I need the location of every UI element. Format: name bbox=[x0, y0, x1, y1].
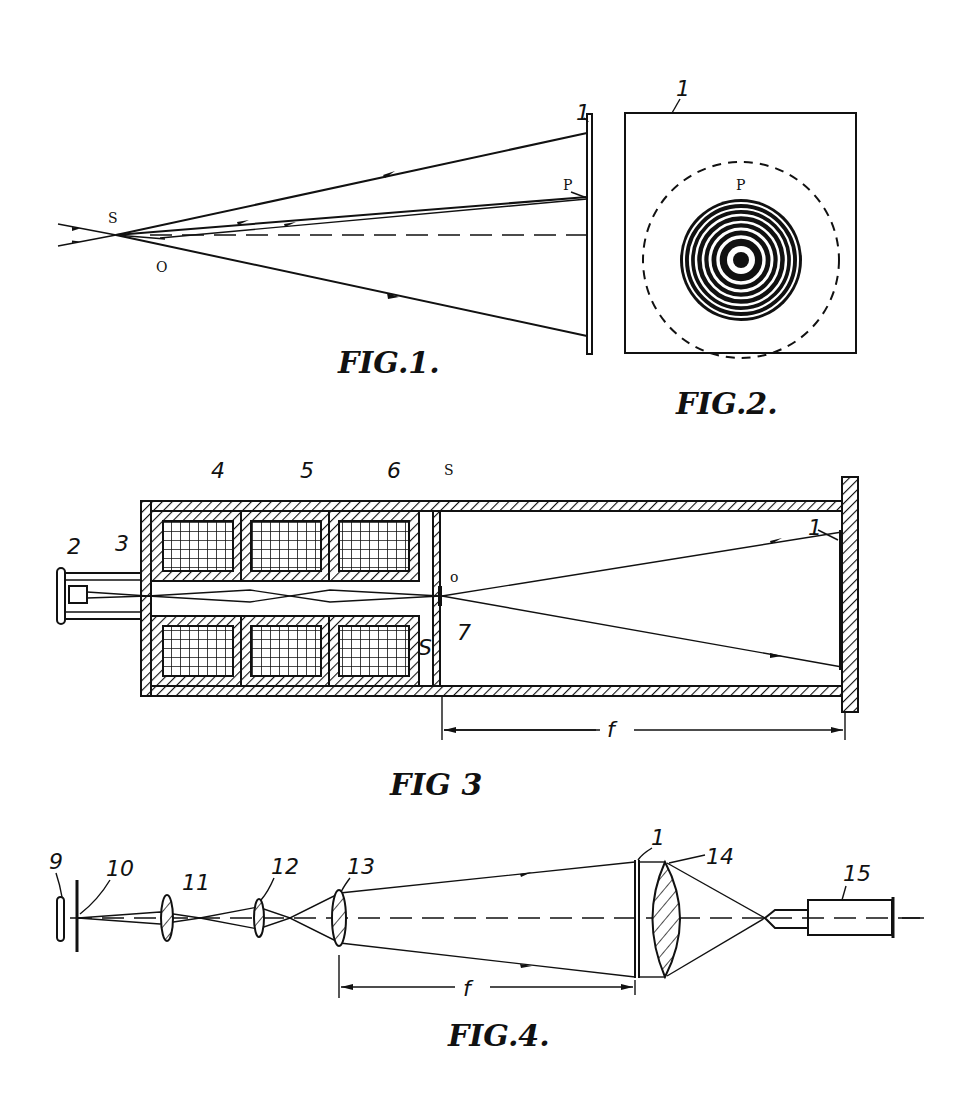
lens-13 bbox=[332, 890, 346, 946]
ray-bottom bbox=[442, 596, 842, 667]
label-f: f bbox=[607, 717, 618, 742]
label-1: 1 bbox=[808, 515, 822, 540]
label-15: 15 bbox=[843, 861, 871, 886]
label-13: 13 bbox=[347, 854, 375, 879]
lens-11 bbox=[161, 895, 173, 941]
label-4: 4 bbox=[211, 458, 225, 483]
housing-top-wall bbox=[141, 501, 844, 511]
label-9: 9 bbox=[49, 849, 63, 874]
label-o: O bbox=[156, 259, 167, 275]
source-2 bbox=[69, 586, 87, 603]
label-6: 6 bbox=[387, 458, 401, 483]
label-11: 11 bbox=[182, 870, 210, 895]
label-1: 1 bbox=[651, 825, 665, 850]
label-s-top: S bbox=[444, 462, 454, 478]
label-p: P bbox=[563, 177, 572, 193]
object-7 bbox=[438, 586, 442, 606]
fig3-caption: FIG 3 bbox=[389, 767, 482, 802]
label-p: P bbox=[736, 177, 745, 193]
coil-5-top bbox=[251, 521, 321, 571]
label-f: f bbox=[463, 976, 474, 1001]
label-5: 5 bbox=[300, 458, 314, 483]
fig4-caption: FIG.4. bbox=[447, 1018, 550, 1053]
fig1-caption: FIG.1. bbox=[337, 345, 440, 380]
coil-5-bottom bbox=[251, 626, 321, 676]
ray-top bbox=[442, 532, 842, 596]
figure-4: f 9 10 11 12 13 1 14 15 FIG.4. bbox=[49, 825, 925, 1053]
screen-1 bbox=[587, 114, 592, 354]
label-14: 14 bbox=[706, 844, 734, 869]
coil-4-bottom bbox=[163, 626, 233, 676]
label-s: S bbox=[108, 210, 118, 226]
figure-1: S O P 1 FIG.1. bbox=[58, 100, 592, 380]
lamp-9 bbox=[57, 897, 64, 941]
ray-to-p bbox=[116, 197, 587, 235]
label-3: 3 bbox=[115, 531, 129, 556]
eyepiece-tip bbox=[765, 910, 808, 928]
label-o: o bbox=[450, 569, 458, 585]
figure-3: f 2 3 4 5 6 S o 7 S 1 FIG 3 bbox=[57, 458, 858, 802]
label-1: 1 bbox=[676, 76, 690, 101]
label-10: 10 bbox=[106, 856, 134, 881]
patent-drawing-sheet: S O P 1 FIG.1. 1 P FIG.2. bbox=[0, 0, 978, 1107]
housing-left-wall bbox=[141, 501, 151, 696]
coil-6-top bbox=[339, 521, 409, 571]
coil-6-bottom bbox=[339, 626, 409, 676]
label-12: 12 bbox=[271, 854, 299, 879]
ring-pattern bbox=[680, 199, 802, 321]
lens-14 bbox=[653, 862, 681, 977]
lens-12 bbox=[254, 899, 264, 937]
label-7: 7 bbox=[457, 620, 471, 645]
label-2: 2 bbox=[67, 534, 81, 559]
fig2-caption: FIG.2. bbox=[675, 386, 778, 421]
housing-bottom-wall bbox=[141, 686, 844, 696]
tube-cap bbox=[57, 568, 65, 624]
figure-2: 1 P FIG.2. bbox=[625, 76, 856, 421]
ray-from-o bbox=[160, 199, 587, 238]
label-s-bottom: S bbox=[418, 635, 432, 660]
incoming-ray-bottom bbox=[58, 235, 116, 246]
ray-bottom bbox=[116, 235, 587, 336]
end-flange bbox=[842, 477, 858, 712]
ray-top bbox=[116, 133, 587, 235]
coil-4-top bbox=[163, 521, 233, 571]
